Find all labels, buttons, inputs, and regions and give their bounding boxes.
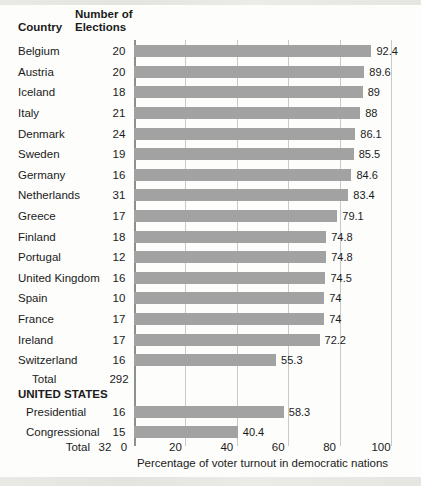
x-tick-100: 100 xyxy=(361,441,401,453)
chart-rows: Belgium2092.4Austria2089.6Iceland1889Ita… xyxy=(0,41,421,442)
table-row-ireland: Ireland1772.2 xyxy=(0,329,421,350)
table-row-portugal: Portugal1274.8 xyxy=(0,247,421,268)
turnout-bar xyxy=(134,313,324,325)
row-elections-count: 16 xyxy=(104,272,134,284)
x-tick-40: 40 xyxy=(207,441,247,453)
bar-cell: 74 xyxy=(134,288,421,309)
row-label: Congressional xyxy=(0,426,104,438)
turnout-bar xyxy=(134,210,337,222)
row-elections-count: 17 xyxy=(104,334,134,346)
bar-cell: 92.4 xyxy=(134,41,421,62)
bar-value-label: 89.6 xyxy=(369,66,390,78)
turnout-bar xyxy=(134,86,363,98)
x-tick-80: 80 xyxy=(310,441,350,453)
row-label: Italy xyxy=(0,107,104,119)
bar-cell: 74.8 xyxy=(134,247,421,268)
x-axis: Total 32 020406080100 xyxy=(0,441,421,455)
footer-total-label: Total xyxy=(18,441,90,453)
bar-value-label: 74.8 xyxy=(331,231,352,243)
row-label: Belgium xyxy=(0,45,104,57)
row-elections-count: 16 xyxy=(104,354,134,366)
bar-value-label: 74 xyxy=(329,292,341,304)
table-row-iceland: Iceland1889 xyxy=(0,82,421,103)
table-row-austria: Austria2089.6 xyxy=(0,62,421,83)
bar-cell: 89.6 xyxy=(134,62,421,83)
column-header-elections: Number of Elections xyxy=(75,8,133,33)
row-elections-count: 20 xyxy=(104,66,134,78)
row-elections-count: 31 xyxy=(104,189,134,201)
row-label: Austria xyxy=(0,66,104,78)
row-elections-count: 18 xyxy=(104,86,134,98)
row-label: United Kingdom xyxy=(0,272,104,284)
column-header-country: Country xyxy=(18,21,62,33)
column-header-elections-line1: Number of xyxy=(75,8,133,21)
table-row-netherlands: Netherlands3183.4 xyxy=(0,185,421,206)
table-row-greece: Greece1779.1 xyxy=(0,206,421,227)
bar-cell xyxy=(138,387,421,402)
row-elections-count: 292 xyxy=(104,373,134,385)
bar-value-label: 55.3 xyxy=(281,354,302,366)
table-row-france: France1774 xyxy=(0,309,421,330)
turnout-bar xyxy=(134,148,354,160)
bar-value-label: 92.4 xyxy=(376,45,397,57)
bar-value-label: 72.2 xyxy=(325,334,346,346)
table-row-total: Total292 xyxy=(0,371,421,387)
table-row-congressional: Congressional1540.4 xyxy=(0,422,421,442)
row-elections-count: 19 xyxy=(104,148,134,160)
turnout-bar xyxy=(134,128,355,140)
turnout-bar xyxy=(134,406,284,418)
bar-cell xyxy=(134,371,421,387)
row-elections-count: 21 xyxy=(104,107,134,119)
table-row-germany: Germany1684.6 xyxy=(0,165,421,186)
table-row-united-kingdom: United Kingdom1674.5 xyxy=(0,268,421,289)
bar-value-label: 88 xyxy=(365,107,377,119)
page-edge-bottom xyxy=(0,477,421,486)
bar-value-label: 74.8 xyxy=(331,251,352,263)
bar-value-label: 79.1 xyxy=(342,210,363,222)
row-elections-count: 24 xyxy=(104,128,134,140)
table-row-italy: Italy2188 xyxy=(0,103,421,124)
table-row-finland: Finland1874.8 xyxy=(0,226,421,247)
bar-value-label: 86.1 xyxy=(360,128,381,140)
row-elections-count: 17 xyxy=(104,313,134,325)
bar-value-label: 74 xyxy=(329,313,341,325)
voter-turnout-figure: Country Number of Elections Belgium2092.… xyxy=(0,0,421,486)
row-elections-count: 10 xyxy=(104,292,134,304)
bar-value-label: 74.5 xyxy=(330,272,351,284)
row-label: Sweden xyxy=(0,148,104,160)
bar-cell: 79.1 xyxy=(134,206,421,227)
table-row-belgium: Belgium2092.4 xyxy=(0,41,421,62)
turnout-bar xyxy=(134,292,324,304)
row-elections-count: 18 xyxy=(104,231,134,243)
bar-cell: 86.1 xyxy=(134,123,421,144)
bar-cell: 74.5 xyxy=(134,268,421,289)
table-row-presidential: Presidential1658.3 xyxy=(0,402,421,422)
row-elections-count: 17 xyxy=(104,210,134,222)
row-label: Iceland xyxy=(0,86,104,98)
turnout-bar xyxy=(134,251,326,263)
bar-value-label: 40.4 xyxy=(243,426,264,438)
row-label: Spain xyxy=(0,292,104,304)
bar-cell: 55.3 xyxy=(134,350,421,371)
row-label: Germany xyxy=(0,169,104,181)
bar-cell: 40.4 xyxy=(134,422,421,442)
bar-cell: 84.6 xyxy=(134,165,421,186)
column-header-elections-line2: Elections xyxy=(75,21,133,34)
bar-cell: 74.8 xyxy=(134,226,421,247)
bar-cell: 88 xyxy=(134,103,421,124)
row-label: Presidential xyxy=(0,406,104,418)
turnout-bar xyxy=(134,354,276,366)
turnout-bar xyxy=(134,272,325,284)
turnout-bar xyxy=(134,334,320,346)
bar-cell: 83.4 xyxy=(134,185,421,206)
x-axis-title: Percentage of voter turnout in democrati… xyxy=(134,457,391,469)
bar-cell: 85.5 xyxy=(134,144,421,165)
turnout-bar xyxy=(134,231,326,243)
turnout-bar xyxy=(134,66,364,78)
bar-value-label: 89 xyxy=(368,86,380,98)
row-elections-count: 15 xyxy=(104,426,134,438)
bar-value-label: 84.6 xyxy=(356,169,377,181)
row-elections-count: 16 xyxy=(104,406,134,418)
row-label: Portugal xyxy=(0,251,104,263)
bar-value-label: 83.4 xyxy=(353,189,374,201)
